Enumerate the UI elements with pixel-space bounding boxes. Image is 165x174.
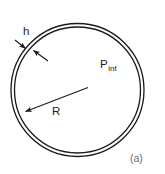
inner-circle xyxy=(15,27,141,153)
figure-caption: (a) xyxy=(130,153,143,164)
thickness-label: h xyxy=(23,26,29,38)
outer-circle xyxy=(11,24,144,157)
radius-label: R xyxy=(52,106,60,118)
pressure-subscript: int xyxy=(108,64,116,73)
pressure-symbol: P xyxy=(100,58,108,70)
thickness-leader-outer-arrow xyxy=(15,40,26,49)
thickness-leader-inner-arrow xyxy=(34,51,49,62)
figure-container: h Pint R (a) xyxy=(0,0,165,174)
internal-pressure-label: Pint xyxy=(100,59,116,71)
